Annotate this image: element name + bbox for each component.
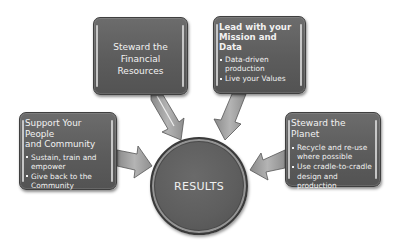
bullet-item: Use cradle-to-cradle design and producti… — [291, 162, 372, 190]
decorative-rail — [288, 120, 290, 179]
node-support-people-community: Support Your People and Community Sustai… — [19, 112, 117, 190]
node-title-line: Steward the — [100, 41, 181, 53]
arrow-financial-to-results — [151, 95, 184, 140]
node-title-line: Steward the Planet — [291, 118, 372, 140]
node-title-line: and Community — [25, 139, 108, 150]
node-steward-planet: Steward the Planet Recycle and re-use wh… — [285, 112, 381, 187]
arrow-people-to-results — [117, 146, 152, 178]
node-title-line: Support Your People — [25, 118, 108, 139]
bullet-item: Data-driven production — [219, 55, 297, 73]
bullet-item: Sustain, train and empower — [25, 153, 108, 171]
results-label: RESULTS — [174, 180, 224, 193]
bullet-item: Live your Values — [219, 74, 297, 83]
node-title-line: Mission and Data — [219, 32, 297, 52]
bullet-list: Sustain, train and empower Give back to … — [25, 153, 108, 191]
node-steward-financial-resources: Steward the Financial Resources — [93, 17, 188, 95]
node-lead-mission-data: Lead with your Mission and Data Data-dri… — [213, 16, 306, 94]
decorative-rail — [300, 24, 302, 86]
decorative-rail — [182, 25, 184, 87]
diagram-canvas: Steward the Financial Resources Lead wit… — [0, 0, 399, 252]
decorative-rail — [375, 120, 377, 179]
bullet-list: Recycle and re-use where possible Use cr… — [291, 143, 372, 190]
decorative-rail — [111, 120, 113, 182]
arrow-planet-to-results — [250, 150, 285, 180]
results-circle: RESULTS — [150, 137, 248, 235]
bullet-item: Recycle and re-use where possible — [291, 143, 372, 161]
decorative-rail — [216, 24, 218, 86]
node-title-line: Financial Resources — [100, 53, 181, 77]
decorative-rail — [22, 120, 24, 182]
arrow-mission-to-results — [214, 94, 246, 140]
decorative-rail — [96, 25, 98, 87]
node-title-line: Lead with your — [219, 22, 297, 32]
bullet-list: Data-driven production Live your Values — [219, 55, 297, 84]
bullet-item: Give back to the Community — [25, 172, 108, 190]
